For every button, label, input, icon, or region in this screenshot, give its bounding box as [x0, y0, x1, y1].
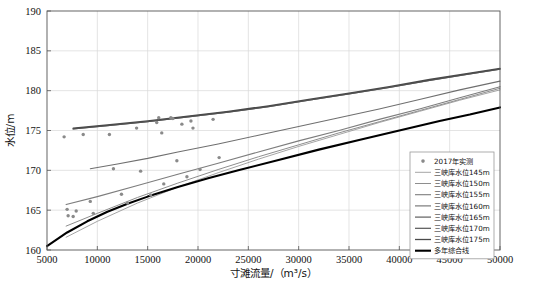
scatter-point — [191, 126, 194, 129]
scatter-point — [171, 117, 174, 120]
scatter-point — [126, 201, 129, 204]
legend-item-label: 2017年实测 — [434, 157, 473, 166]
legend-item-label: 三峡库水位150m — [434, 179, 490, 188]
legend-item-label: 多年综合线 — [434, 246, 469, 255]
scatter-point — [112, 167, 115, 170]
scatter-point — [135, 126, 138, 129]
x-tick-label: 15000 — [135, 254, 161, 265]
scatter-point — [198, 168, 201, 171]
scatter-point — [108, 133, 111, 136]
scatter-point — [160, 131, 163, 134]
scatter-point — [157, 116, 160, 119]
scatter-point — [66, 214, 69, 217]
scatter-point — [71, 215, 74, 218]
scatter-point — [62, 135, 65, 138]
legend-item-label: 三峡库水位170m — [434, 224, 490, 233]
scatter-point — [92, 212, 95, 215]
x-tick-label: 5000 — [37, 254, 58, 265]
y-tick-label: 160 — [25, 245, 41, 256]
scatter-point — [120, 193, 123, 196]
y-tick-label: 190 — [25, 6, 41, 17]
scatter-point — [185, 175, 188, 178]
y-tick-label: 170 — [25, 165, 41, 176]
legend-item-label: 三峡库水位155m — [434, 190, 490, 199]
scatter-point — [74, 209, 77, 212]
scatter-point — [65, 208, 68, 211]
chart-container: 5000100001500020000250003000035000400004… — [0, 0, 535, 287]
y-tick-label: 185 — [25, 45, 41, 56]
scatter-point — [89, 200, 92, 203]
scatter-point — [149, 193, 152, 196]
scatter-point — [139, 169, 142, 172]
legend: 2017年实测三峡库水位145m三峡库水位150m三峡库水位155m三峡库水位1… — [410, 152, 494, 259]
x-tick-label: 25000 — [235, 254, 261, 265]
scatter-point — [175, 159, 178, 162]
scatter-point — [155, 121, 158, 124]
legend-item-label: 三峡库水位165m — [434, 213, 490, 222]
y-tick-label: 165 — [25, 205, 41, 216]
y-tick-label: 180 — [25, 85, 41, 96]
scatter-point — [189, 119, 192, 122]
legend-item-label: 三峡库水位160m — [434, 202, 490, 211]
legend-marker-icon — [421, 159, 425, 163]
x-tick-label: 20000 — [185, 254, 211, 265]
legend-item-label: 三峡库水位145m — [434, 168, 490, 177]
x-tick-label: 40000 — [386, 254, 412, 265]
scatter-point — [211, 118, 214, 121]
x-tick-label: 10000 — [84, 254, 110, 265]
y-axis-title: 水位/m — [4, 114, 16, 148]
scatter-point — [162, 182, 165, 185]
scatter-point — [82, 133, 85, 136]
scatter-point — [180, 122, 183, 125]
scatter-point — [217, 156, 220, 159]
water-level-rating-curve-chart: 5000100001500020000250003000035000400004… — [0, 0, 535, 287]
x-tick-label: 35000 — [336, 254, 362, 265]
x-tick-label: 30000 — [286, 254, 312, 265]
legend-item-label: 三峡库水位175m — [434, 235, 490, 244]
x-axis-title: 寸滩流量/（m³/s） — [230, 267, 317, 279]
y-tick-label: 175 — [25, 125, 41, 136]
